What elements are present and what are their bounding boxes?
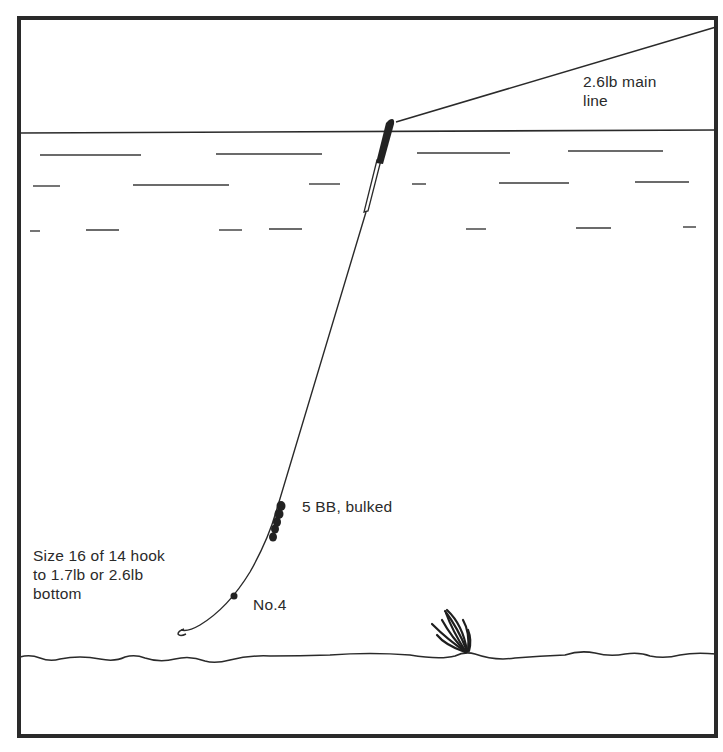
weed <box>432 610 470 652</box>
main-line-label: 2.6lb main line <box>583 72 657 110</box>
water-surface <box>20 130 716 133</box>
lake-bed <box>20 652 716 662</box>
water-ripples <box>30 151 696 231</box>
diagram-frame <box>19 18 716 736</box>
bulk-shot-label: 5 BB, bulked <box>302 497 392 516</box>
hook-label: Size 16 of 14 hook to 1.7lb or 2.6lb bot… <box>33 546 165 603</box>
dropper-shot-label: No.4 <box>253 595 287 614</box>
dropper-shot <box>231 593 238 600</box>
rig-line <box>181 212 366 630</box>
main-line <box>396 27 716 122</box>
fishing-rig-diagram <box>0 0 723 752</box>
float <box>364 119 394 212</box>
bulk-shot <box>269 501 286 542</box>
